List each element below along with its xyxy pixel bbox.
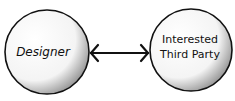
node-interested-third-party: Interested Third Party [150,9,232,91]
node-designer: Designer [5,10,89,94]
double-arrow-icon [91,45,148,61]
diagram-canvas: Designer Interested Third Party [0,0,235,101]
designer-label: Designer [16,45,71,59]
third-party-label-line1: Interested [162,33,218,46]
third-party-label-line2: Third Party [159,48,220,61]
